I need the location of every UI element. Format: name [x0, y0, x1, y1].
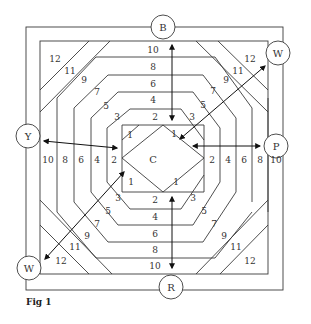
svg-text:6: 6 [78, 155, 84, 165]
svg-text:4: 4 [152, 212, 158, 222]
svg-text:12: 12 [49, 54, 60, 64]
svg-text:1: 1 [128, 177, 134, 187]
svg-text:B: B [159, 22, 166, 33]
svg-text:5: 5 [200, 100, 206, 110]
label-top: B [151, 15, 175, 39]
svg-text:2: 2 [209, 155, 215, 165]
svg-text:W: W [273, 48, 284, 59]
svg-text:1: 1 [127, 130, 133, 140]
label-bottom: R [159, 275, 183, 299]
svg-text:2: 2 [152, 195, 158, 205]
svg-text:Y: Y [24, 131, 32, 142]
label-top-right: W [266, 41, 290, 65]
svg-text:5: 5 [201, 206, 207, 216]
svg-text:6: 6 [241, 155, 247, 165]
svg-text:2: 2 [111, 155, 117, 165]
quilt-block-diagram: B W P Y W R C 10 8 6 4 2 2 4 6 8 10 10 8… [0, 0, 311, 324]
svg-text:12: 12 [244, 256, 255, 266]
svg-text:12: 12 [244, 54, 255, 64]
svg-text:8: 8 [152, 245, 158, 255]
center-square [122, 125, 204, 192]
svg-text:9: 9 [84, 231, 90, 241]
svg-text:10: 10 [42, 155, 54, 165]
svg-text:4: 4 [94, 155, 100, 165]
svg-text:5: 5 [105, 206, 111, 216]
label-bottom-left: W [17, 256, 41, 280]
svg-text:8: 8 [257, 155, 263, 165]
svg-text:10: 10 [149, 261, 161, 271]
svg-text:9: 9 [223, 75, 229, 85]
figure-caption: Fig 1 [26, 297, 52, 307]
svg-text:12: 12 [55, 256, 66, 266]
center-label: C [149, 154, 157, 165]
svg-text:W: W [24, 263, 35, 274]
svg-text:7: 7 [94, 219, 100, 229]
svg-text:3: 3 [115, 193, 121, 203]
svg-text:1: 1 [173, 177, 179, 187]
svg-text:7: 7 [94, 87, 100, 97]
svg-text:8: 8 [150, 62, 156, 72]
svg-text:10: 10 [147, 45, 159, 55]
svg-text:9: 9 [221, 231, 227, 241]
svg-text:3: 3 [190, 193, 196, 203]
svg-text:7: 7 [211, 219, 217, 229]
label-left: Y [16, 124, 40, 148]
svg-text:11: 11 [69, 242, 80, 252]
svg-text:4: 4 [150, 95, 156, 105]
svg-text:2: 2 [152, 112, 158, 122]
svg-text:8: 8 [62, 155, 68, 165]
svg-text:6: 6 [152, 229, 158, 239]
svg-text:9: 9 [81, 75, 87, 85]
svg-text:10: 10 [270, 155, 282, 165]
svg-text:3: 3 [114, 112, 120, 122]
svg-text:4: 4 [225, 155, 231, 165]
svg-text:1: 1 [171, 129, 177, 139]
svg-text:7: 7 [210, 86, 216, 96]
svg-text:3: 3 [189, 112, 195, 122]
svg-text:P: P [273, 141, 280, 152]
svg-text:5: 5 [103, 101, 109, 111]
arrow-left [44, 141, 117, 148]
svg-text:11: 11 [230, 242, 241, 252]
svg-text:R: R [167, 282, 175, 293]
svg-text:11: 11 [232, 66, 243, 76]
svg-text:6: 6 [150, 79, 156, 89]
svg-text:11: 11 [64, 66, 75, 76]
